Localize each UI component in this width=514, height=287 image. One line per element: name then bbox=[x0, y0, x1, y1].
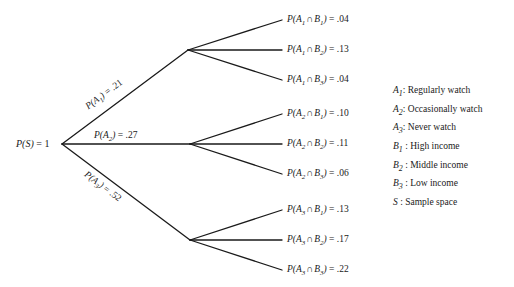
probability-tree-diagram: P(S) = 1 P(A1) = .21 P(A2) = .27 P(A3) =… bbox=[0, 0, 514, 287]
branch-root-a3 bbox=[62, 144, 190, 240]
branch-a1-b3 bbox=[188, 50, 282, 80]
branch-a3-b1 bbox=[190, 210, 282, 240]
leaf-label-a2b1: P(A2∩B1) = .10 bbox=[287, 109, 349, 121]
legend-item-a3: A3: Never watch bbox=[393, 120, 511, 139]
leaf-label-a3b3: P(A3∩B3) = .22 bbox=[287, 265, 349, 277]
branch-label-a2: P(A2) = .27 bbox=[94, 131, 137, 143]
leaf-label-a1b1: P(A1∩B1) = .04 bbox=[287, 15, 349, 27]
legend-item-b3: B3 : Low income bbox=[393, 176, 511, 195]
leaf-label-a2b3: P(A2∩B3) = .06 bbox=[287, 169, 349, 181]
leaf-label-a1b3: P(A1∩B3) = .04 bbox=[287, 75, 349, 87]
legend-item-b2: B2 : Middle income bbox=[393, 158, 511, 177]
legend-item-a2: A2: Occasionally watch bbox=[393, 102, 511, 121]
branch-a2-b1 bbox=[190, 114, 282, 144]
legend-item-s: S : Sample space bbox=[393, 195, 511, 214]
leaf-label-a3b2: P(A3∩B2) = .17 bbox=[287, 235, 349, 247]
leaf-label-a1b2: P(A1∩B2) = .13 bbox=[287, 45, 349, 57]
legend-item-b1: B1 : High income bbox=[393, 139, 511, 158]
legend: A1: Regularly watch A2: Occasionally wat… bbox=[393, 83, 511, 214]
leaf-label-a2b2: P(A2∩B2) = .11 bbox=[287, 139, 348, 151]
branch-a1-b1 bbox=[188, 20, 282, 50]
branch-a2-b3 bbox=[190, 144, 282, 174]
branch-a3-b3 bbox=[190, 240, 282, 270]
legend-item-a1: A1: Regularly watch bbox=[393, 83, 511, 102]
leaf-label-a3b1: P(A3∩B1) = .13 bbox=[287, 205, 349, 217]
root-node-label: P(S) = 1 bbox=[16, 139, 49, 149]
